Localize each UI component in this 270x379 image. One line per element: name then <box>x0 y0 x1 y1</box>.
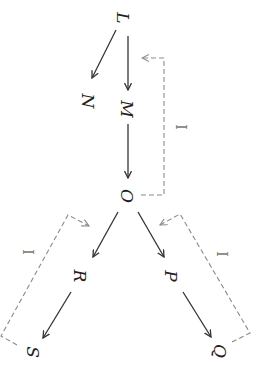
edge-O-R <box>93 212 118 257</box>
loop-label-Q-P: I <box>214 251 230 257</box>
edge-P-Q <box>183 292 211 337</box>
loop-label-S-R: I <box>20 249 36 255</box>
edge-R-S <box>43 292 71 338</box>
node-Q: Q <box>210 344 230 358</box>
node-N: N <box>78 93 98 110</box>
diagram-canvas: I I I L N M O R P S Q <box>0 0 270 379</box>
edge-O-P <box>138 212 164 257</box>
node-P: P <box>161 269 181 282</box>
node-R: R <box>70 269 90 283</box>
node-O: O <box>117 189 137 203</box>
node-M: M <box>117 99 137 118</box>
feedback-O-M <box>141 58 164 195</box>
node-L: L <box>113 11 133 23</box>
node-S: S <box>23 346 43 358</box>
loop-label-O-M: I <box>173 124 189 130</box>
edge-L-N <box>92 30 116 78</box>
